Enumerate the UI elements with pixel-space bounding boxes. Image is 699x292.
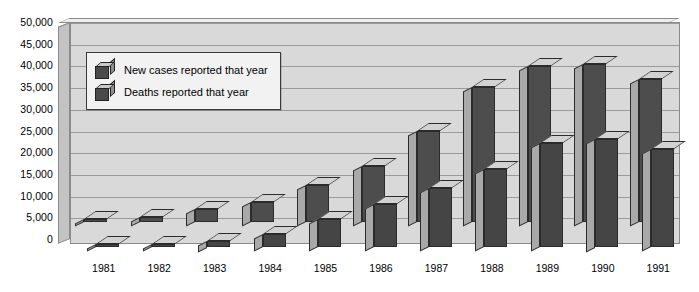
legend-label-new-cases: New cases reported that year (124, 64, 268, 76)
y-axis-tick-label: 0 (47, 233, 53, 245)
x-axis-tick-label: 1991 (647, 262, 670, 274)
x-axis-tick-label: 1986 (369, 262, 392, 274)
x-axis-tick-label: 1981 (92, 262, 115, 274)
y-axis-tick-label: 20,000 (20, 146, 53, 158)
x-axis-tick-label: 1988 (480, 262, 503, 274)
x-axis-tick-label: 1987 (425, 262, 448, 274)
legend-label-deaths: Deaths reported that year (124, 86, 249, 98)
chart-legend: New cases reported that year Deaths repo… (86, 52, 281, 110)
x-axis-tick-label: 1982 (147, 262, 170, 274)
bar-deaths (96, 244, 119, 247)
x-axis-tick-label: 1985 (314, 262, 337, 274)
bar-deaths (207, 241, 230, 248)
bar-deaths (263, 234, 286, 247)
y-axis-tick-label: 35,000 (20, 81, 53, 93)
y-axis-tick-label: 10,000 (20, 190, 53, 202)
y-axis-tick-label: 50,000 (20, 16, 53, 28)
x-axis-tick-label: 1989 (536, 262, 559, 274)
bar-deaths (374, 204, 397, 247)
x-axis: 1981198219831984198519861987198819891990… (58, 262, 680, 282)
x-axis-tick-label: 1984 (258, 262, 281, 274)
bar-deaths (318, 219, 341, 247)
chart-3d-bar-aids-cases-deaths: 05,00010,00015,00020,00025,00030,00035,0… (0, 0, 699, 292)
y-axis-tick-label: 40,000 (20, 59, 53, 71)
legend-swatch-deaths-icon (95, 84, 115, 101)
legend-item-new-cases: New cases reported that year (95, 59, 268, 81)
y-axis-tick-label: 5,000 (26, 211, 53, 223)
bar-deaths (651, 149, 674, 247)
y-axis-tick-label: 45,000 (20, 38, 53, 50)
y-axis-tick-label: 15,000 (20, 168, 53, 180)
legend-item-deaths: Deaths reported that year (95, 81, 268, 103)
bar-new-cases (251, 202, 274, 222)
x-axis-tick-label: 1990 (591, 262, 614, 274)
bar-new-cases (195, 209, 218, 222)
bar-deaths (429, 188, 452, 247)
legend-swatch-new-cases-icon (95, 62, 115, 79)
y-axis-tick-label: 25,000 (20, 125, 53, 137)
bar-deaths (152, 244, 175, 247)
bar-deaths (595, 139, 618, 248)
y-axis-tick-label: 30,000 (20, 103, 53, 115)
bar-new-cases (84, 219, 107, 222)
x-axis-tick-label: 1983 (203, 262, 226, 274)
bar-new-cases (140, 217, 163, 222)
plot-left-wall (58, 22, 70, 244)
bar-deaths (540, 143, 563, 247)
y-axis: 05,00010,00015,00020,00025,00030,00035,0… (0, 0, 56, 292)
bar-deaths (484, 169, 507, 247)
